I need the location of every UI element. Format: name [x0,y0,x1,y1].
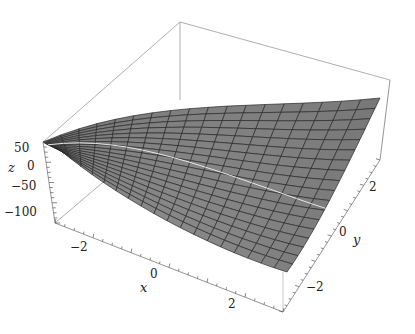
x-tick-label: −2 [70,240,88,254]
z-axis-label: z [7,160,15,175]
tick-mark [245,293,246,297]
tick-mark [264,302,265,305]
tick-mark [112,243,113,246]
surface-cell [225,105,247,113]
tick-mark [376,159,380,160]
tick-mark [169,264,170,268]
tick-mark [369,172,372,173]
tick-mark [188,272,189,275]
y-tick-label: −2 [306,280,324,294]
surface-cell [235,128,256,137]
tick-mark [236,291,237,294]
tick-mark [325,242,328,243]
z-tick-label: −100 [4,205,37,219]
surface-cell [259,112,281,121]
tick-mark [160,261,161,264]
surface-cell [148,122,167,128]
tick-mark [333,229,336,230]
z-axis: 50 0 −50 −100 z [4,141,37,219]
tick-mark [305,273,308,274]
tick-mark [255,298,256,301]
surface-cell [217,128,238,136]
surface-cell [206,106,227,114]
tick-mark [84,232,85,235]
surface-cell [95,138,112,142]
tick-mark [360,184,364,185]
tick-mark [295,285,299,286]
tick-mark [341,216,344,217]
surface-cell [200,127,220,135]
surface-cell [130,128,149,133]
surface-cell [147,127,166,133]
surface-cell [184,121,204,128]
z-tick-label: −50 [11,179,36,193]
surface-cell [129,133,147,138]
surface-cell [220,121,241,129]
surface [43,98,380,272]
tick-mark [301,280,304,281]
tick-mark [293,292,296,293]
z-tick-label: 0 [27,159,35,173]
x-tick-label: 2 [228,297,236,311]
tick-mark [198,276,199,279]
tick-mark [207,278,208,282]
surface-cell [241,113,263,121]
surface-cell [166,121,186,127]
tick-mark [337,223,340,224]
surface-plot: 50 0 −50 −100 z −2 0 2 x −2 0 2 y [0,0,415,334]
surface-cell [168,115,188,122]
tick-mark [179,269,180,272]
tick-mark [373,166,376,167]
tick-mark [321,248,324,249]
x-tick-label: 0 [150,267,158,281]
tick-mark [317,254,320,255]
tick-mark [349,204,352,205]
surface-cell [186,114,206,121]
surface-cell [164,127,183,133]
surface-cell [243,105,265,113]
tick-mark [65,224,66,227]
z-tick-label: 50 [14,141,29,155]
y-tick-label: 2 [369,180,377,194]
tick-mark [289,299,292,300]
surface-cell [182,127,202,134]
tick-mark [150,258,151,261]
tick-mark [103,239,104,242]
x-axis: −2 0 2 x [70,240,236,311]
tick-mark [93,234,94,238]
tick-mark [274,306,275,309]
tick-mark [217,284,218,287]
tick-mark [357,191,360,192]
tick-mark [309,267,312,268]
x-axis-label: x [140,280,148,295]
surface-cell [238,121,259,129]
tick-mark [328,235,332,236]
tick-mark [122,246,123,249]
surface-cell [204,113,225,120]
y-axis-label: y [352,232,361,247]
tick-mark [74,228,75,231]
surface-cell [112,133,130,138]
tick-mark [365,178,368,179]
tick-mark [344,209,348,210]
tick-mark [141,254,142,257]
y-tick-label: 0 [339,225,347,239]
tick-mark [131,249,132,253]
tick-mark [285,305,288,306]
tick-mark [353,197,356,198]
tick-mark [311,260,315,261]
surface-cell [202,121,223,128]
surface-cell [222,113,243,121]
tick-mark [226,287,227,290]
